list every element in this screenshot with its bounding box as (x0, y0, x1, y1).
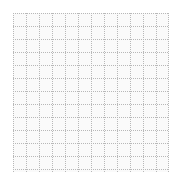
grid-column-line (52, 13, 53, 172)
grid-row-line (13, 169, 169, 170)
grid-row-line (13, 91, 169, 92)
grid-row-line (13, 130, 169, 131)
grid-column-line (91, 13, 92, 172)
grid-horizontal-lines (13, 13, 169, 172)
grid-column-line (117, 13, 118, 172)
grid-row-line (13, 104, 169, 105)
grid-column-line (39, 13, 40, 172)
grid-row-line (13, 26, 169, 27)
canvas-root (0, 0, 175, 179)
grid-row-line (13, 13, 169, 14)
grid-vertical-lines (13, 13, 169, 172)
grid-row-line (13, 156, 169, 157)
grid-column-line (65, 13, 66, 172)
grid-row-line (13, 117, 169, 118)
grid-column-line (104, 13, 105, 172)
grid-row-line (13, 52, 169, 53)
grid-column-line (168, 13, 169, 172)
grid-row-line (13, 65, 169, 66)
grid-column-line (156, 13, 157, 172)
dotted-grid[interactable] (13, 13, 169, 172)
grid-column-line (130, 13, 131, 172)
grid-column-line (13, 13, 14, 172)
grid-column-line (26, 13, 27, 172)
grid-column-line (143, 13, 144, 172)
grid-row-line (13, 78, 169, 79)
grid-column-line (78, 13, 79, 172)
grid-cell-wash (13, 13, 169, 172)
grid-row-line (13, 143, 169, 144)
grid-row-line (13, 39, 169, 40)
